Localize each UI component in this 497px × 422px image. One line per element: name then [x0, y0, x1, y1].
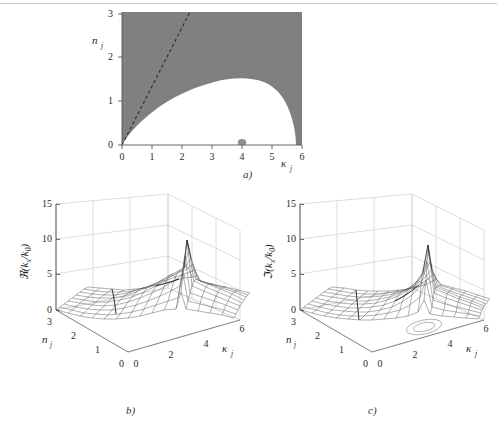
panel-b-zlabel-end: )	[18, 244, 31, 249]
panel-b-xtick-2: 2	[169, 349, 174, 360]
panel-a-phase-diagram: 0 1 2 3 4 5 6 0 1 2 3 n	[0, 0, 497, 190]
panel-a-ytick-2: 2	[108, 51, 113, 62]
panel-b-zlabel-group: ℜ(kx/k0)	[18, 244, 33, 281]
panel-a-xtick-6: 6	[300, 151, 305, 162]
panel-c-z-ticks: 15 10 5 0	[286, 198, 304, 315]
panel-a-xtick-0: 0	[120, 151, 125, 162]
panel-c-ylabel: n	[286, 333, 292, 345]
panel-a-xlabel-subscript: j	[289, 164, 292, 173]
panel-b-ylabel-subscript: j	[49, 340, 52, 349]
panel-b-ytick-2: 2	[71, 330, 76, 341]
panel-c-xlabel-group: κ j	[466, 342, 477, 358]
panel-c-ylabel-subscript: j	[293, 340, 296, 349]
panel-c-ytick-1: 1	[339, 344, 344, 355]
panel-b-ztick-0: 0	[47, 304, 52, 315]
panel-b-ylabel: n	[42, 333, 48, 345]
panel-b-floor-grid	[56, 288, 240, 352]
panel-b-ztick-5: 5	[47, 268, 52, 279]
panel-b-ytick-3: 3	[47, 316, 52, 327]
panel-b-xtick-4: 4	[204, 338, 209, 349]
panel-b-xtick-0: 0	[134, 358, 139, 369]
panel-b-zlabel-main: ℜ(k	[18, 261, 31, 280]
panel-b-svg: 15 10 5 0 ℜ(kx/k0)	[8, 192, 253, 422]
panel-c-ytick-3: 3	[291, 316, 296, 327]
panel-a-xlabel-group: κ j	[281, 157, 292, 173]
panel-c-ztick-0: 0	[291, 304, 296, 315]
panel-b-ylabel-group: n j	[42, 333, 52, 349]
panel-c-ytick-0: 0	[363, 358, 368, 369]
panel-a-xtick-3: 3	[210, 151, 215, 162]
panel-a-svg: 0 1 2 3 4 5 6 0 1 2 3 n	[0, 0, 497, 190]
panel-a-xlabel: κ	[281, 157, 287, 169]
panel-c-xlabel-subscript: j	[474, 349, 477, 358]
panel-c-surface-imag: 15 10 5 0 ℑ(kx/k0)	[252, 192, 497, 422]
panel-c-mesh-surface	[300, 245, 490, 320]
panel-c-floor-contour	[405, 316, 443, 337]
panel-a-xtick-1: 1	[150, 151, 155, 162]
panel-a-xtick-5: 5	[270, 151, 275, 162]
panel-c-caption: c)	[368, 404, 377, 416]
panel-c-zlabel-end: )	[262, 244, 275, 249]
panel-c-ztick-15: 15	[286, 198, 296, 209]
panel-b-z-ticks: 15 10 5 0	[42, 198, 60, 315]
panel-c-xlabel: κ	[466, 342, 472, 354]
panel-c-floor-grid	[300, 288, 484, 352]
panel-c-ztick-10: 10	[286, 233, 296, 244]
panel-c-zlabel-main: ℑ(k	[262, 262, 275, 280]
panel-c-svg: 15 10 5 0 ℑ(kx/k0)	[252, 192, 497, 422]
panel-a-xtick-2: 2	[180, 151, 185, 162]
panel-a-ytick-1: 1	[108, 95, 113, 106]
panel-a-ylabel-group: n j	[92, 34, 103, 50]
figure-root: 0 1 2 3 4 5 6 0 1 2 3 n	[0, 0, 497, 422]
panel-b-mesh-surface	[56, 240, 250, 319]
panel-b-xlabel: κ	[222, 342, 228, 354]
panel-b-xtick-6: 6	[240, 323, 245, 334]
panel-a-ylabel-subscript: j	[100, 41, 103, 50]
panel-c-xtick-0: 0	[378, 358, 383, 369]
panel-b-xlabel-subscript: j	[230, 349, 233, 358]
panel-c-xtick-4: 4	[448, 338, 453, 349]
panel-a-ytick-0: 0	[108, 139, 113, 150]
panel-a-y-ticks: 0 1 2 3	[108, 8, 122, 150]
panel-a-xtick-4: 4	[240, 151, 245, 162]
panel-a-x-ticks: 0 1 2 3 4 5 6	[120, 145, 305, 162]
panel-c-ytick-2: 2	[315, 330, 320, 341]
panel-b-xlabel-group: κ j	[222, 342, 233, 358]
svg-text:ℑ(kx/k0): ℑ(kx/k0)	[262, 244, 277, 280]
panel-b-ytick-1: 1	[95, 344, 100, 355]
panel-c-zlabel-group: ℑ(kx/k0)	[262, 244, 277, 280]
panel-c-xtick-6: 6	[484, 323, 489, 334]
panel-c-floor-outline	[300, 310, 484, 352]
panel-b-ztick-15: 15	[42, 198, 52, 209]
panel-a-ytick-3: 3	[108, 8, 113, 19]
panel-a-ylabel: n	[92, 34, 98, 46]
panel-c-xtick-2: 2	[413, 349, 418, 360]
panel-b-caption: b)	[126, 404, 135, 416]
panel-b-floor-outline	[56, 310, 240, 352]
panel-b-ytick-0: 0	[119, 358, 124, 369]
svg-text:ℜ(kx/k0): ℜ(kx/k0)	[18, 244, 33, 281]
panel-b-surface-real: 15 10 5 0 ℜ(kx/k0)	[8, 192, 253, 422]
panel-c-ylabel-group: n j	[286, 333, 296, 349]
panel-c-ztick-5: 5	[291, 268, 296, 279]
panel-b-ztick-10: 10	[42, 233, 52, 244]
panel-a-caption: a)	[243, 168, 252, 180]
